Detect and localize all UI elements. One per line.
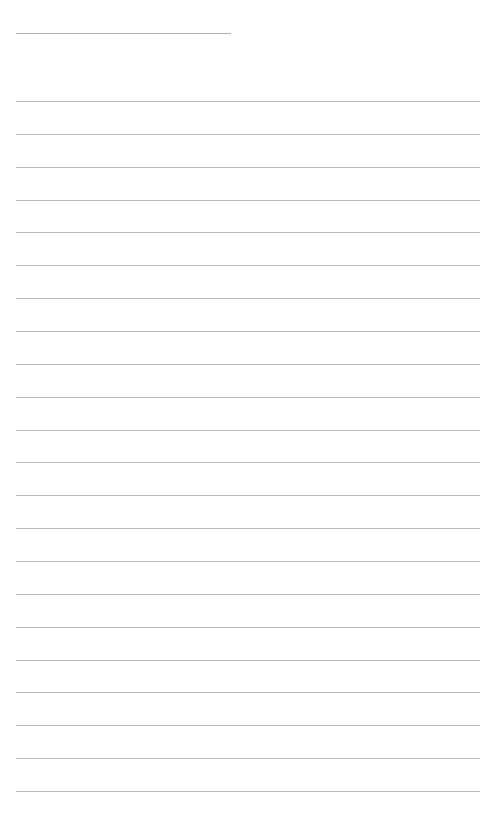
ruled-line xyxy=(16,561,480,562)
ruled-line xyxy=(16,331,480,332)
ruled-line xyxy=(16,791,480,792)
ruled-line xyxy=(16,627,480,628)
ruled-line xyxy=(16,462,480,463)
header-rule xyxy=(16,33,231,34)
ruled-line xyxy=(16,101,480,102)
ruled-line xyxy=(16,364,480,365)
ruled-line xyxy=(16,495,480,496)
ruled-line xyxy=(16,594,480,595)
ruled-line xyxy=(16,430,480,431)
ruled-line xyxy=(16,298,480,299)
ruled-line xyxy=(16,660,480,661)
ruled-line xyxy=(16,232,480,233)
ruled-line xyxy=(16,397,480,398)
ruled-line xyxy=(16,134,480,135)
ruled-line xyxy=(16,167,480,168)
ruled-line xyxy=(16,200,480,201)
ruled-line xyxy=(16,692,480,693)
ruled-line xyxy=(16,265,480,266)
ruled-line xyxy=(16,758,480,759)
ruled-line xyxy=(16,725,480,726)
lined-paper-page xyxy=(0,0,504,824)
ruled-line xyxy=(16,528,480,529)
